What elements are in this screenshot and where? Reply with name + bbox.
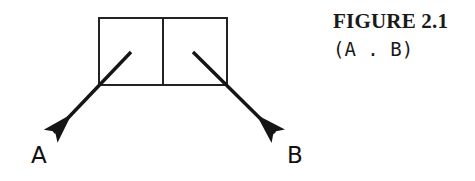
cdr-pointer-arrow	[193, 52, 275, 133]
figure-caption: FIGURE 2.1 (A . B)	[333, 9, 473, 62]
figure-caption-title: FIGURE 2.1	[333, 9, 473, 33]
cons-box-group	[99, 18, 227, 85]
car-pointer-arrow	[54, 52, 131, 133]
node-label-a: A	[31, 144, 47, 167]
figure-caption-expression: (A . B)	[333, 36, 473, 62]
node-label-b: B	[287, 144, 303, 167]
figure-container: A B FIGURE 2.1 (A . B)	[0, 0, 475, 181]
